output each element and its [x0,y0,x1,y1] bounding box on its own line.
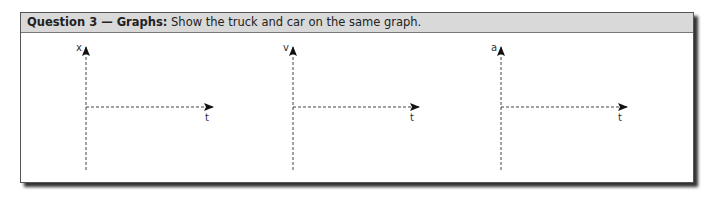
y-axis-label: a [491,42,497,53]
graphs-canvas: x t v t a t [0,0,715,197]
y-axis-label: x [76,42,82,53]
graph-velocity-time[interactable]: v t [283,42,419,170]
x-axis-label: t [205,112,209,123]
graph-position-time[interactable]: x t [76,42,213,170]
y-axis-label: v [283,42,289,53]
x-axis-label: t [618,112,622,123]
x-axis-label: t [410,112,414,123]
graph-acceleration-time[interactable]: a t [491,42,627,170]
